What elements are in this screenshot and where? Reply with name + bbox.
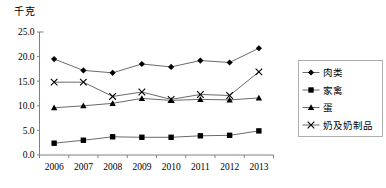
y-axis-tick-label: 10.0: [18, 101, 35, 111]
data-point-square: [256, 128, 261, 133]
legend-label: 肉类: [323, 67, 343, 78]
x-axis-tick-label: 2012: [220, 162, 239, 172]
data-point-x: [256, 69, 263, 76]
data-point-square: [227, 133, 232, 138]
data-point-triangle: [139, 95, 145, 101]
x-axis-tick-label: 2013: [249, 162, 268, 172]
x-axis-tick-label: 2010: [162, 162, 181, 172]
legend-label: 蛋: [323, 103, 333, 113]
y-axis-tick-label: 5.0: [23, 126, 35, 136]
series-2: [51, 128, 261, 146]
y-axis-tick-label: 20.0: [18, 52, 35, 62]
data-point-diamond: [110, 70, 116, 76]
data-point-diamond: [168, 64, 174, 70]
x-axis-tick-label: 2006: [45, 162, 64, 172]
y-axis-tick-label: 25.0: [18, 27, 35, 37]
series-4: [51, 69, 262, 103]
y-axis-tick-label: 0.0: [23, 150, 35, 160]
data-point-diamond: [256, 45, 262, 51]
chart-legend: 肉类家禽蛋奶及奶制品: [299, 61, 383, 137]
chart-plot-area: 0.05.010.015.020.025.0 20062007200820092…: [0, 0, 386, 188]
data-point-square: [110, 134, 115, 139]
data-point-square: [51, 140, 56, 145]
chart-container: 千克 0.05.010.015.020.025.0 20062007200820…: [0, 0, 386, 188]
data-point-square: [81, 138, 86, 143]
data-point-diamond: [227, 59, 233, 65]
legend-label: 家禽: [323, 85, 343, 96]
x-axis-tick-label: 2008: [103, 162, 122, 172]
series-3: [51, 95, 262, 111]
x-axis-tick-label: 2009: [132, 162, 151, 172]
data-point-diamond: [51, 56, 57, 62]
series-line: [54, 72, 259, 100]
data-point-square: [139, 135, 144, 140]
data-point-triangle: [256, 95, 262, 101]
legend-label: 奶及奶制品: [323, 120, 373, 131]
x-axis-tick-labels: 20062007200820092010201120122013: [45, 162, 269, 172]
axis-lines: [40, 32, 274, 155]
y-axis-tick-label: 15.0: [18, 77, 35, 87]
x-axis-tick-label: 2007: [74, 162, 93, 172]
data-point-diamond: [139, 61, 145, 67]
data-point-square: [168, 135, 173, 140]
data-point-diamond: [80, 67, 86, 73]
y-axis-tick-labels: 0.05.010.015.020.025.0: [18, 27, 35, 160]
data-point-square: [198, 133, 203, 138]
x-axis-tick-label: 2011: [191, 162, 210, 172]
data-point-square: [308, 87, 313, 92]
series-1: [51, 45, 262, 76]
data-point-diamond: [197, 57, 203, 63]
chart-series-group: [51, 45, 262, 146]
